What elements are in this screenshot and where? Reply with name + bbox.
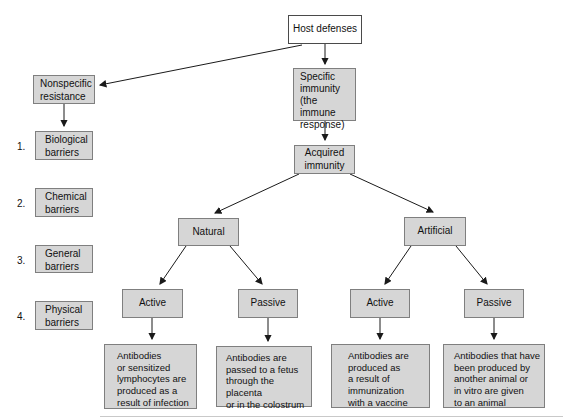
barrier-number-1: 1. [17,141,25,153]
node-natural-passive: Passive [238,289,298,318]
desc-artificial-passive: Antibodies that have been produced by an… [443,344,545,408]
node-host-defenses: Host defenses [288,15,362,44]
node-artificial: Artificial [404,217,466,246]
barrier-number-3: 3. [17,255,25,267]
arrow-acquired-to-artificial [350,174,433,212]
arrow-artificial-to-active [385,246,411,284]
node-artificial-passive: Passive [464,289,524,318]
immunity-flowchart: Host defenses Nonspecific resistance Spe… [0,0,563,420]
node-physical-barriers: Physical barriers [35,301,93,330]
node-natural: Natural [178,218,239,246]
barrier-number-2: 2. [17,198,25,210]
node-general-barriers: General barriers [35,245,93,273]
barrier-number-4: 4. [17,311,25,323]
arrow-acquired-to-natural [215,174,299,213]
arrow-natural-to-passive [230,246,262,284]
arrow-host-to-nonspecific [100,45,302,85]
bottom-rule [100,416,563,417]
arrow-natural-to-active [160,246,186,284]
desc-artificial-active: Antibodies are produced as a result of i… [331,344,430,408]
desc-natural-passive: Antibodies are passed to a fetus through… [216,346,312,407]
node-artificial-active: Active [350,289,410,318]
node-biological-barriers: Biological barriers [35,131,93,160]
desc-natural-active: Antibodies or sensitized lymphocytes are… [104,344,197,409]
arrow-artificial-to-passive [456,246,487,284]
node-specific-immunity: Specific immunity (the immune response) [293,68,356,121]
node-natural-active: Active [122,289,183,318]
node-chemical-barriers: Chemical barriers [35,188,93,217]
node-nonspecific-resistance: Nonspecific resistance [33,75,95,104]
node-acquired-immunity: Acquired immunity [294,145,355,174]
